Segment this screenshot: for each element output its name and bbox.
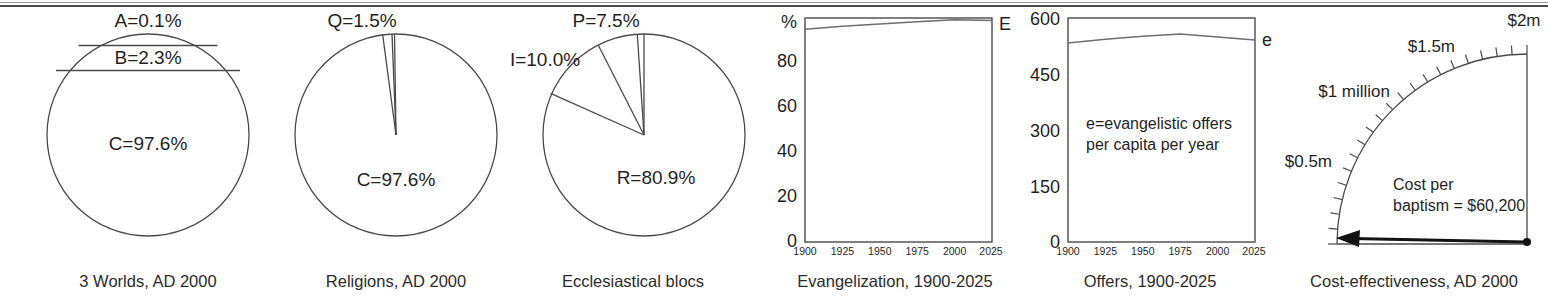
gauge-tick-marks: [1328, 45, 1527, 244]
panel-offers: e 600 450 300 150 0 e=evangelistic offer…: [1020, 0, 1280, 304]
x-tick-1975: 1975: [906, 245, 930, 257]
label-b: B=2.3%: [114, 47, 181, 68]
evangelization-chart: % E 80 60 40 20 0 1900 1925 1950 1975 20…: [770, 0, 1020, 270]
label-i: I=10.0%: [510, 49, 580, 70]
caption-evangelization: Evangelization, 1900-2025: [770, 272, 1020, 291]
series-line-E: [805, 20, 992, 29]
y-tick-60: 60: [777, 96, 797, 116]
needle-pivot: [1523, 238, 1531, 246]
readout-line-1: Cost per: [1393, 176, 1454, 193]
panel-religions: Q=1.5% C=97.6% Religions, AD 2000: [296, 0, 496, 304]
y-tick-labels: 80 60 40 20 0: [777, 51, 797, 251]
slice-divider-i-r: [551, 93, 644, 135]
caption-three-worlds: 3 Worlds, AD 2000: [0, 272, 296, 291]
x-tick-1925: 1925: [831, 245, 855, 257]
x-tick-1950: 1950: [1131, 245, 1155, 257]
caption-offers: Offers, 1900-2025: [1020, 272, 1280, 291]
label-p: P=7.5%: [572, 10, 639, 31]
slice-divider-3: [395, 34, 397, 135]
series-label-E: E: [999, 14, 1011, 34]
x-tick-1975: 1975: [1169, 245, 1193, 257]
slice-divider-p: [637, 34, 644, 135]
x-tick-1950: 1950: [868, 245, 892, 257]
y-tick-450: 450: [1030, 65, 1060, 85]
plot-frame: [805, 18, 992, 242]
panel-evangelization: % E 80 60 40 20 0 1900 1925 1950 1975 20…: [770, 0, 1020, 304]
slice-divider-p-i: [598, 45, 644, 135]
panel-ecclesiastical-blocs: P=7.5% I=10.0% R=80.9% Ecclesiastical bl…: [496, 0, 770, 304]
y-tick-40: 40: [777, 141, 797, 161]
x-tick-2000: 2000: [1206, 245, 1230, 257]
annotation-line-1: e=evangelistic offers: [1086, 115, 1232, 132]
x-tick-1900: 1900: [793, 245, 817, 257]
y-tick-20: 20: [777, 186, 797, 206]
ecclesiastical-blocs-chart: P=7.5% I=10.0% R=80.9%: [496, 0, 770, 270]
three-worlds-chart: A=0.1% B=2.3% C=97.6%: [0, 0, 296, 270]
cost-effectiveness-gauge: $0.5m $1 million $1.5m $2m Cost per bapt…: [1280, 0, 1548, 270]
y-tick-labels: 600 450 300 150 0: [1030, 9, 1060, 252]
scale-label-2m: $2m: [1507, 11, 1540, 30]
y-tick-80: 80: [777, 51, 797, 71]
label-q: Q=1.5%: [327, 10, 396, 31]
panel-cost-effectiveness: $0.5m $1 million $1.5m $2m Cost per bapt…: [1280, 0, 1548, 304]
y-axis-label: %: [781, 12, 797, 32]
y-tick-300: 300: [1030, 121, 1060, 141]
label-r: R=80.9%: [617, 167, 696, 188]
x-tick-2025: 2025: [1242, 245, 1266, 257]
scale-label-0-5m: $0.5m: [1285, 152, 1332, 171]
figure-strip: A=0.1% B=2.3% C=97.6% 3 Worlds, AD 2000 …: [0, 0, 1548, 304]
x-tick-2025: 2025: [979, 245, 1003, 257]
x-tick-2000: 2000: [943, 245, 967, 257]
y-tick-150: 150: [1030, 177, 1060, 197]
scale-label-1-5m: $1.5m: [1408, 37, 1455, 56]
series-label-e: e: [1262, 30, 1272, 50]
x-tick-1925: 1925: [1094, 245, 1118, 257]
label-c: C=97.6%: [109, 133, 188, 154]
x-tick-1900: 1900: [1056, 245, 1080, 257]
label-c: C=97.6%: [357, 169, 436, 190]
annotation-line-2: per capita per year: [1086, 136, 1220, 153]
series-line-e: [1068, 34, 1255, 43]
readout-line-2: baptism = $60,200: [1393, 197, 1525, 214]
label-a: A=0.1%: [114, 10, 181, 31]
panel-three-worlds: A=0.1% B=2.3% C=97.6% 3 Worlds, AD 2000: [0, 0, 296, 304]
offers-chart: e 600 450 300 150 0 e=evangelistic offer…: [1020, 0, 1280, 270]
caption-religions: Religions, AD 2000: [296, 272, 496, 291]
x-tick-labels: 1900 1925 1950 1975 2000 2025: [1056, 245, 1266, 257]
caption-ecclesiastical-blocs: Ecclesiastical blocs: [496, 272, 770, 291]
religions-chart: Q=1.5% C=97.6%: [296, 0, 496, 270]
caption-cost-effectiveness: Cost-effectiveness, AD 2000: [1280, 272, 1548, 291]
scale-label-1m: $1 million: [1318, 82, 1390, 101]
y-tick-600: 600: [1030, 9, 1060, 29]
x-tick-labels: 1900 1925 1950 1975 2000 2025: [793, 245, 1003, 257]
